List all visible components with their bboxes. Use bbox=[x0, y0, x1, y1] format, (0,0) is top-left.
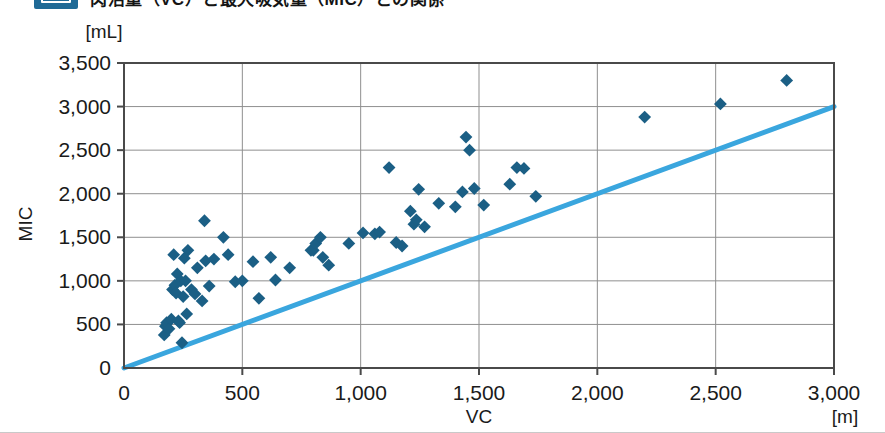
y-axis-tick-label: 3,000 bbox=[58, 95, 111, 118]
x-axis-title: VC bbox=[466, 406, 492, 427]
section-number-badge-inner bbox=[41, 0, 71, 3]
x-axis-tick-labels: 05001,0001,5002,0002,5003,000 bbox=[118, 381, 860, 404]
section-number-badge bbox=[34, 0, 78, 9]
x-axis-tick-label: 3,000 bbox=[808, 381, 861, 404]
x-axis-tick-label: 1,500 bbox=[453, 381, 506, 404]
y-axis-tick-label: 0 bbox=[99, 356, 111, 379]
scatter-chart-figure: 05001,0001,5002,0002,5003,0003,500 05001… bbox=[0, 11, 885, 433]
chart-page: 肉活量（VC）と最大吸気量（MIC）との関係 05001,0001,5002,0… bbox=[0, 0, 885, 433]
y-axis-tick-label: 2,000 bbox=[58, 182, 111, 205]
y-axis-unit-label: [mL] bbox=[86, 21, 123, 42]
x-axis-tick-label: 2,500 bbox=[689, 381, 742, 404]
y-axis-tick-label: 500 bbox=[76, 312, 111, 335]
y-axis-title: MIC bbox=[15, 207, 36, 242]
section-heading: 肉活量（VC）と最大吸気量（MIC）との関係 bbox=[0, 0, 885, 11]
scatter-chart-svg: 05001,0001,5002,0002,5003,0003,500 05001… bbox=[0, 11, 885, 433]
y-axis-tick-label: 1,000 bbox=[58, 269, 111, 292]
y-axis-tick-label: 2,500 bbox=[58, 138, 111, 161]
section-heading-title: 肉活量（VC）と最大吸気量（MIC）との関係 bbox=[90, 0, 445, 10]
y-axis-tick-label: 3,500 bbox=[58, 51, 111, 74]
x-axis-tick-label: 500 bbox=[225, 381, 260, 404]
y-axis-tick-labels: 05001,0001,5002,0002,5003,0003,500 bbox=[58, 51, 111, 379]
y-axis-tick-label: 1,500 bbox=[58, 225, 111, 248]
x-axis-tick-label: 0 bbox=[118, 381, 130, 404]
x-axis-unit-label: [m] bbox=[832, 406, 858, 427]
x-axis-tick-label: 2,000 bbox=[571, 381, 624, 404]
x-axis-tick-label: 1,000 bbox=[334, 381, 387, 404]
